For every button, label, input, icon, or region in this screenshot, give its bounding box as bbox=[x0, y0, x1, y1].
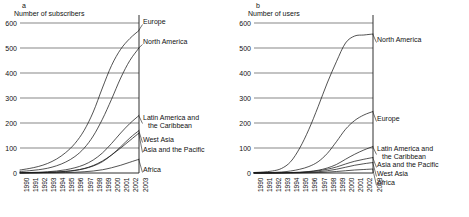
a-xtick-1992: 1992 bbox=[41, 178, 48, 192]
b-xtick-1993: 1993 bbox=[284, 178, 291, 192]
a-xtick-2000: 2000 bbox=[114, 178, 121, 192]
b-xtick-1990: 1990 bbox=[257, 178, 264, 192]
b-xtick-1991: 1991 bbox=[266, 178, 273, 192]
b-xtick-1995: 1995 bbox=[302, 178, 309, 192]
b-xtick-2001: 2001 bbox=[357, 178, 364, 192]
a-xtick-1995: 1995 bbox=[68, 178, 75, 192]
panel-b-label-west-asia: West Asia bbox=[377, 170, 408, 178]
panel-b-label-latin-america: Latin America and the Caribbean bbox=[377, 145, 433, 161]
panel-a-label-latin-america-line2: the Caribbean bbox=[143, 122, 199, 130]
a-xtick-2002: 2002 bbox=[132, 178, 139, 192]
panel-b-label-west-asia-text: West Asia bbox=[377, 170, 408, 177]
panel-a-label-west-asia-text: West Asia bbox=[143, 136, 174, 143]
panel-a-label-africa-text: Africa bbox=[143, 166, 161, 173]
panel-a-label-asia-pacific: Asia and the Pacific bbox=[143, 146, 204, 154]
panel-a-label-north-america-text: North America bbox=[143, 38, 187, 45]
a-xtick-2003: 2003 bbox=[142, 178, 149, 192]
panel-a-label-asia-pacific-text: Asia and the Pacific bbox=[143, 146, 204, 153]
panel-b: b Number of users 600 500 400 300 200 10… bbox=[234, 0, 469, 217]
panel-b-label-africa-text: Africa bbox=[377, 179, 395, 186]
figure-root: a Number of subscribers 600 500 400 300 … bbox=[0, 0, 469, 217]
a-xtick-2001: 2001 bbox=[123, 178, 130, 192]
b-xtick-1994: 1994 bbox=[293, 178, 300, 192]
a-xtick-1993: 1993 bbox=[50, 178, 57, 192]
series-line-latin-america-and-the-caribbean bbox=[254, 147, 373, 173]
panel-a-label-north-america: North America bbox=[143, 38, 187, 46]
b-xtick-1996: 1996 bbox=[311, 178, 318, 192]
b-xtick-1998: 1998 bbox=[330, 178, 337, 192]
panel-b-label-north-america: North America bbox=[377, 36, 421, 44]
panel-a-label-latin-america: Latin America and the Caribbean bbox=[143, 114, 199, 130]
series-line-europe bbox=[20, 31, 139, 171]
panel-a-label-europe-text: Europe bbox=[143, 18, 166, 25]
panel-b-label-europe: Europe bbox=[377, 115, 400, 123]
a-xtick-1990: 1990 bbox=[23, 178, 30, 192]
a-xtick-1998: 1998 bbox=[96, 178, 103, 192]
b-xtick-2000: 2000 bbox=[348, 178, 355, 192]
series-line-latin-america-and-the-caribbean bbox=[20, 116, 139, 173]
a-xtick-1991: 1991 bbox=[32, 178, 39, 192]
panel-a-label-europe: Europe bbox=[143, 18, 166, 26]
b-xtick-1997: 1997 bbox=[321, 178, 328, 192]
panel-a-label-west-asia: West Asia bbox=[143, 136, 174, 144]
panel-b-label-europe-text: Europe bbox=[377, 115, 400, 122]
a-xtick-1994: 1994 bbox=[59, 178, 66, 192]
panel-b-label-asia-pacific-text: Asia and the Pacific bbox=[377, 161, 438, 168]
panel-b-label-africa: Africa bbox=[377, 179, 395, 187]
series-line-north-america bbox=[20, 48, 139, 172]
b-xtick-2002: 2002 bbox=[366, 178, 373, 192]
a-xtick-1997: 1997 bbox=[87, 178, 94, 192]
panel-b-label-latin-america-line1: Latin America and bbox=[377, 145, 433, 152]
a-xtick-1996: 1996 bbox=[77, 178, 84, 192]
panel-a-label-latin-america-line1: Latin America and bbox=[143, 114, 199, 121]
b-xtick-1992: 1992 bbox=[275, 178, 282, 192]
series-line-europe bbox=[254, 112, 373, 173]
panel-b-label-asia-pacific: Asia and the Pacific bbox=[377, 161, 438, 169]
panel-a-label-africa: Africa bbox=[143, 166, 161, 174]
panel-a: a Number of subscribers 600 500 400 300 … bbox=[0, 0, 234, 217]
a-xtick-1999: 1999 bbox=[105, 178, 112, 192]
series-line-north-america bbox=[254, 34, 373, 173]
panel-b-label-north-america-text: North America bbox=[377, 36, 421, 43]
b-xtick-1999: 1999 bbox=[339, 178, 346, 192]
